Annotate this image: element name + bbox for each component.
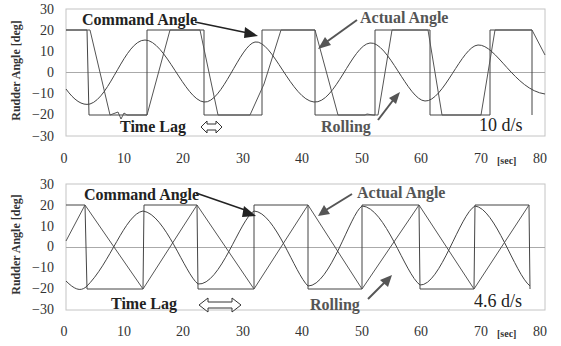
- time-lag-label: Time Lag: [111, 295, 177, 313]
- time-lag-label: Time Lag: [120, 118, 186, 136]
- actual-arrow-head: [318, 205, 330, 216]
- rate-label: 4.6 d/s: [474, 291, 522, 312]
- command-angle-label: Command Angle: [84, 186, 199, 204]
- rolling-label: Rolling: [321, 118, 371, 136]
- actual-angle-label: Actual Angle: [360, 9, 448, 27]
- chart-panel-bottom: Rudder Angle [deg] 30 20 10 0 −10 −20 −3…: [0, 174, 561, 346]
- actual-angle-label: Actual Angle: [357, 184, 445, 202]
- chart-panel-top: Rudder Angle [deg] 30 20 10 0 −10 −20 −3…: [0, 0, 561, 173]
- actual-angle-line: [66, 30, 545, 119]
- actual-arrow-head: [318, 37, 331, 49]
- rolling-label: Rolling: [310, 296, 360, 314]
- time-lag-arrow-icon: [201, 121, 222, 133]
- rate-label: 10 d/s: [479, 115, 523, 136]
- command-arrow-head: [244, 27, 258, 38]
- command-angle-label: Command Angle: [82, 11, 197, 29]
